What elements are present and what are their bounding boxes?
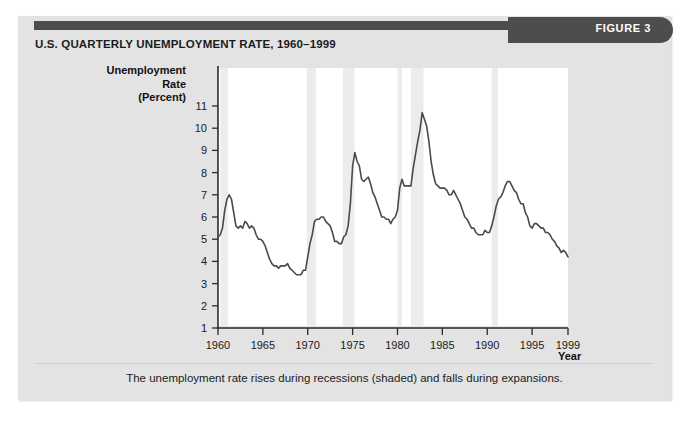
y-tick-label: 3 [201,278,207,290]
chart-area: Unemployment Rate (Percent) 123456789101… [18,16,671,400]
x-tick-label: 1990 [475,339,499,351]
x-tick-label: 1995 [520,339,544,351]
x-tick-label: 1960 [206,339,230,351]
y-tick-label: 6 [201,211,207,223]
x-tick-label: 1980 [385,339,409,351]
caption-divider [34,363,654,364]
y-tick-label: 11 [196,100,207,112]
x-tick-label: 1965 [251,339,275,351]
y-tick-label: 10 [195,122,207,134]
y-tick-label: 2 [201,300,207,312]
recession-band [343,68,355,326]
y-tick-label: 1 [201,322,207,334]
y-tick-label: 8 [201,167,207,179]
y-tick-label: 9 [201,144,207,156]
x-tick-label: 1975 [340,339,364,351]
y-tick-label: 4 [201,255,207,267]
x-tick-label: 1970 [296,339,320,351]
plot-background [218,68,568,326]
recession-band [307,68,316,326]
y-tick-label: 5 [201,233,207,245]
recession-band [411,68,424,326]
figure-caption: The unemployment rate rises during reces… [18,372,671,384]
recession-band [492,68,498,326]
y-tick-label: 7 [201,189,207,201]
unemployment-line-chart: 1234567891011196019651970197519801985199… [18,16,671,400]
figure-card: FIGURE 3 U.S. QUARTERLY UNEMPLOYMENT RAT… [18,16,671,400]
x-tick-label: 1985 [430,339,454,351]
recession-band [220,68,228,326]
x-axis-title: Year [558,350,581,362]
